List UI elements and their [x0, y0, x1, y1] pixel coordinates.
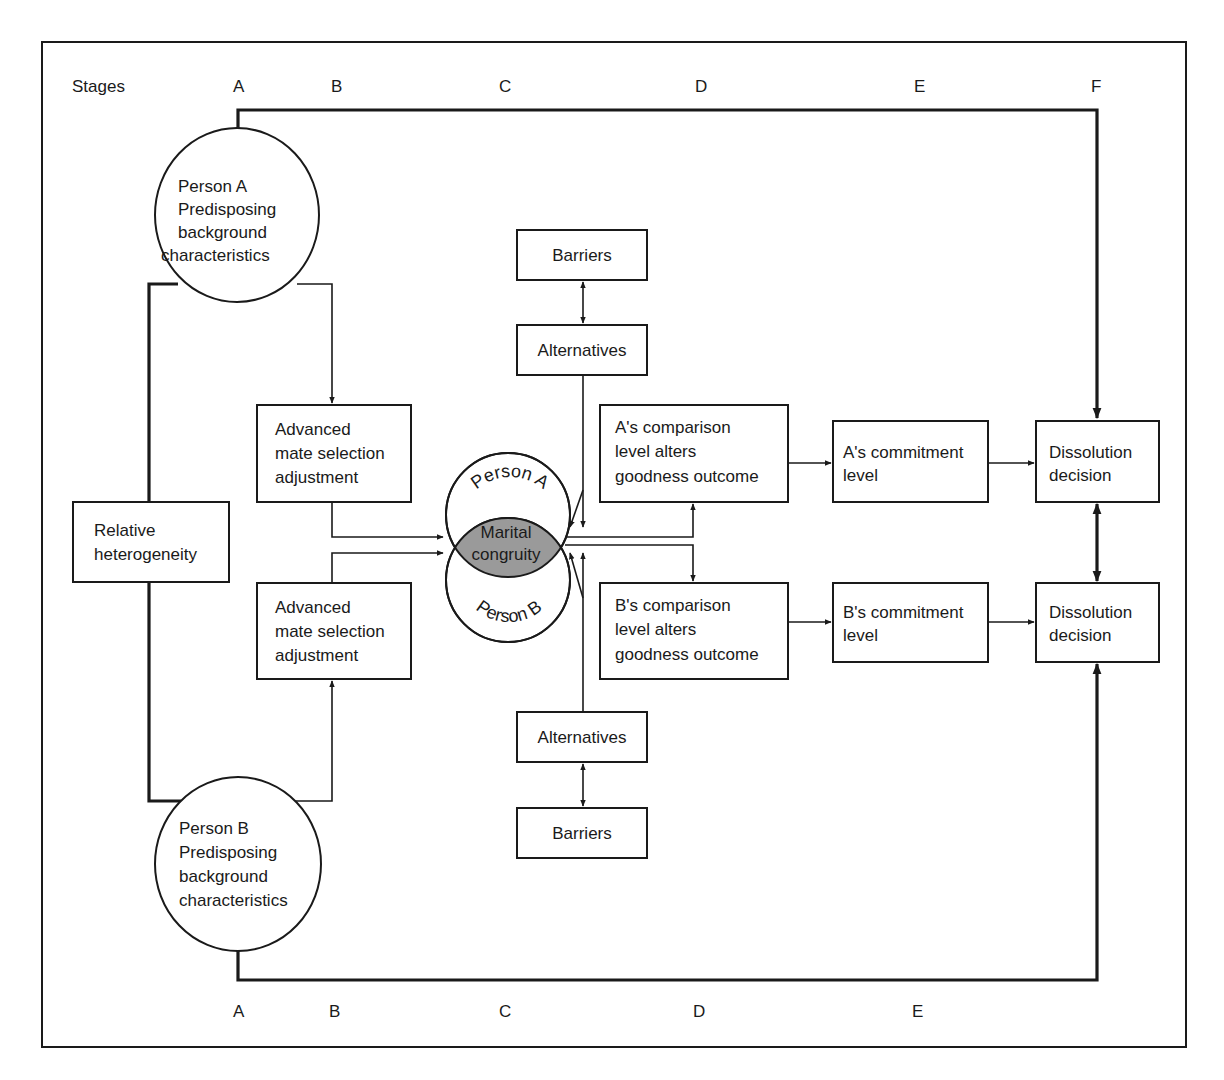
congruity-line-2: congruity: [472, 545, 541, 564]
person-a-line-4: characteristics: [161, 246, 270, 265]
stage-label-b-bottom: B: [329, 1002, 340, 1021]
node-b-commitment: B's commitment level: [833, 583, 988, 662]
stage-label-d: D: [695, 77, 707, 96]
alternatives-top-label: Alternatives: [538, 341, 627, 360]
stage-label-d-bottom: D: [693, 1002, 705, 1021]
adv-mate-b-line-2: mate selection: [275, 622, 385, 641]
b-comparison-line-3: goodness outcome: [615, 645, 759, 664]
connector-alternatives-top-diagonal: [570, 490, 583, 527]
connector-person-b-to-adv-mate-b: [295, 681, 332, 801]
stage-label-e: E: [914, 77, 925, 96]
adv-mate-b-line-3: adjustment: [275, 646, 358, 665]
node-adv-mate-selection-a: Advanced mate selection adjustment: [257, 405, 411, 502]
connector-person-a-to-dissolution-a: [238, 110, 1097, 418]
adv-mate-a-line-2: mate selection: [275, 444, 385, 463]
node-person-a: Person A Predisposing background charact…: [155, 128, 319, 302]
node-person-b: Person B Predisposing background charact…: [155, 777, 321, 951]
node-alternatives-bottom: Alternatives: [517, 712, 647, 762]
b-comparison-line-1: B's comparison: [615, 596, 731, 615]
connector-adv-mate-b-to-congruity: [332, 553, 443, 583]
barriers-bottom-label: Barriers: [552, 824, 612, 843]
connector-person-a-to-heterogeneity: [149, 284, 178, 502]
node-a-commitment: A's commitment level: [833, 421, 988, 502]
stage-label-c-bottom: C: [499, 1002, 511, 1021]
person-a-line-3: background: [178, 223, 267, 242]
stage-labels-top: Stages A B C D E F: [72, 77, 1101, 96]
connector-person-a-to-adv-mate-a: [297, 284, 332, 403]
a-comparison-line-3: goodness outcome: [615, 467, 759, 486]
node-relative-heterogeneity: Relative heterogeneity: [73, 502, 229, 582]
node-barriers-top: Barriers: [517, 230, 647, 280]
b-commitment-line-2: level: [843, 626, 878, 645]
person-a-line-1: Person A: [178, 177, 248, 196]
b-commitment-line-1: B's commitment: [843, 603, 964, 622]
a-comparison-line-2: level alters: [615, 442, 696, 461]
stages-heading: Stages: [72, 77, 125, 96]
connector-heterogeneity-to-person-b: [149, 582, 181, 801]
relative-heterogeneity-line-2: heterogeneity: [94, 545, 198, 564]
stage-label-c: C: [499, 77, 511, 96]
node-a-comparison: A's comparison level alters goodness out…: [600, 405, 788, 502]
stage-label-e-bottom: E: [912, 1002, 923, 1021]
dissolution-b-line-1: Dissolution: [1049, 603, 1132, 622]
person-b-line-4: characteristics: [179, 891, 288, 910]
a-comparison-line-1: A's comparison: [615, 418, 731, 437]
connector-congruity-to-b-comparison: [565, 545, 693, 581]
barriers-top-label: Barriers: [552, 246, 612, 265]
connector-alternatives-bottom-diagonal: [570, 553, 583, 598]
a-commitment-line-2: level: [843, 466, 878, 485]
adv-mate-a-line-1: Advanced: [275, 420, 351, 439]
b-comparison-line-2: level alters: [615, 620, 696, 639]
relative-heterogeneity-line-1: Relative: [94, 521, 155, 540]
alternatives-bottom-label: Alternatives: [538, 728, 627, 747]
a-commitment-line-1: A's commitment: [843, 443, 964, 462]
connector-adv-mate-a-to-congruity: [332, 502, 443, 537]
node-adv-mate-selection-b: Advanced mate selection adjustment: [257, 583, 411, 679]
dissolution-a-line-2: decision: [1049, 466, 1111, 485]
adv-mate-a-line-3: adjustment: [275, 468, 358, 487]
person-b-line-3: background: [179, 867, 268, 886]
node-b-comparison: B's comparison level alters goodness out…: [600, 583, 788, 679]
dissolution-a-line-1: Dissolution: [1049, 443, 1132, 462]
stage-label-a: A: [233, 77, 245, 96]
person-a-line-2: Predisposing: [178, 200, 276, 219]
congruity-line-1: Marital: [480, 523, 531, 542]
adv-mate-b-line-1: Advanced: [275, 598, 351, 617]
person-b-line-2: Predisposing: [179, 843, 277, 862]
node-marital-congruity: Person A Person B Marital congruity: [446, 453, 570, 642]
node-dissolution-b: Dissolution decision: [1036, 583, 1159, 662]
stage-label-f: F: [1091, 77, 1101, 96]
person-b-line-1: Person B: [179, 819, 249, 838]
stage-labels-bottom: A B C D E: [233, 1002, 923, 1021]
node-barriers-bottom: Barriers: [517, 808, 647, 858]
stage-label-b: B: [331, 77, 342, 96]
connector-person-b-to-dissolution-b: [238, 664, 1097, 980]
stage-label-a-bottom: A: [233, 1002, 245, 1021]
node-dissolution-a: Dissolution decision: [1036, 421, 1159, 502]
marital-dissolution-diagram: Stages A B C D E F A B C D E: [0, 0, 1224, 1080]
connector-congruity-to-a-comparison: [565, 504, 693, 537]
node-alternatives-top: Alternatives: [517, 325, 647, 375]
dissolution-b-line-2: decision: [1049, 626, 1111, 645]
